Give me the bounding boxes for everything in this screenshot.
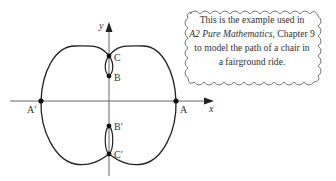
label-A: A — [180, 104, 188, 115]
callout-line-4: a fairground ride. — [186, 55, 318, 69]
point-C — [107, 54, 112, 59]
callout-line-1: This is the example used in — [186, 13, 318, 27]
outer-curve — [41, 46, 176, 165]
callout-text: This is the example used in A2 Pure Math… — [186, 13, 318, 69]
book-title: A2 Pure Mathematics — [189, 28, 272, 39]
point-A — [173, 98, 178, 103]
label-A-prime: A′ — [27, 104, 36, 115]
point-A-prime — [38, 98, 43, 103]
y-axis-arrow-icon — [106, 22, 113, 32]
chapter-ref: , Chapter 9 — [272, 28, 314, 39]
point-C-prime — [107, 152, 112, 157]
y-axis-label: y — [98, 20, 104, 31]
callout-line-3: to model the path of a chair in — [186, 41, 318, 55]
callout-line-2: A2 Pure Mathematics, Chapter 9 — [186, 27, 318, 41]
label-B: B — [114, 72, 121, 83]
x-axis-label: x — [208, 103, 214, 114]
point-B-prime — [107, 124, 112, 129]
label-C-prime: C′ — [114, 149, 123, 160]
point-B — [107, 74, 112, 79]
label-B-prime: B′ — [114, 121, 123, 132]
label-C: C — [114, 52, 121, 63]
